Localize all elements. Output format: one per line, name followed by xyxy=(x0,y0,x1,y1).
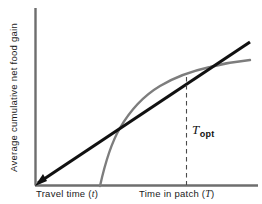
tangent-line xyxy=(38,42,250,183)
optimum-time-label: Topt xyxy=(192,121,214,137)
optimum-subscript: opt xyxy=(200,129,215,139)
figure-container: Average cumulative net food gain Travel … xyxy=(0,0,262,204)
optimum-symbol: T xyxy=(192,122,199,137)
plot-area xyxy=(0,0,262,204)
caption-sliver xyxy=(0,197,262,204)
gain-curve xyxy=(100,60,250,186)
tangent-arrowhead-icon xyxy=(35,174,47,186)
y-axis-label: Average cumulative net food gain xyxy=(8,16,19,180)
